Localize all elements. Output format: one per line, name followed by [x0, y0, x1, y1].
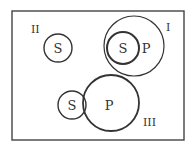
case-i: I S P: [104, 16, 170, 76]
circle-s-label: S: [54, 41, 63, 56]
case-i-label: I: [166, 21, 170, 34]
circle-s-label: S: [119, 41, 128, 56]
case-iii: S P III: [58, 75, 156, 131]
circle-p: [104, 16, 164, 76]
circle-s-label: S: [68, 98, 77, 113]
euler-diagram: II S I S P S P III: [0, 0, 196, 155]
case-ii-label: II: [31, 23, 40, 36]
case-ii: II S: [31, 23, 72, 62]
case-iii-label: III: [143, 116, 156, 129]
circle-p-label: P: [142, 41, 151, 56]
circle-p-label: P: [105, 98, 114, 113]
